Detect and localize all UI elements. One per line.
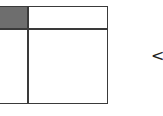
grid-diagram [0,6,108,104]
vertical-divider [27,7,29,103]
shaded-cell [0,7,27,28]
horizontal-divider [0,28,107,30]
left-arrow-icon: < [151,48,163,64]
